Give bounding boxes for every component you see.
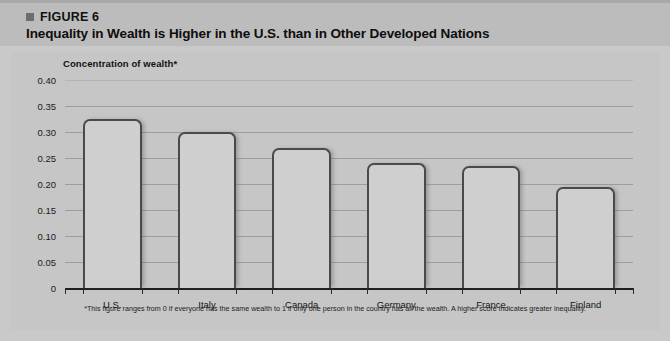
bar-canada: [272, 148, 331, 288]
x-axis-tick: [367, 288, 368, 294]
y-axis-tick-label: 0.05: [38, 257, 57, 268]
x-axis-tick: [236, 288, 237, 294]
y-axis-tick-label: 0.40: [38, 75, 57, 86]
square-bullet-icon: [26, 13, 34, 21]
gridline: [65, 132, 633, 133]
x-axis-tick: [615, 288, 616, 294]
x-axis-tick: [556, 288, 557, 294]
figure-container: FIGURE 6 Inequality in Wealth is Higher …: [0, 0, 670, 341]
gridline: [65, 158, 633, 159]
bar-france: [462, 166, 521, 288]
plot-area: 00.050.100.150.200.250.300.350.40U.S.Ita…: [65, 80, 633, 288]
bar-finland: [556, 187, 615, 288]
figure-footnote: *This figure ranges from 0 if everyone h…: [10, 304, 660, 313]
x-axis-tick: [426, 288, 427, 294]
gridline: [65, 262, 633, 263]
gridline: [65, 236, 633, 237]
figure-number-label: FIGURE 6: [40, 10, 99, 24]
y-axis-tick-label: 0.15: [38, 205, 57, 216]
x-axis-tick: [520, 288, 521, 294]
bar-italy: [178, 132, 237, 288]
figure-label-row: FIGURE 6: [26, 10, 99, 24]
y-axis-tick-label: 0.20: [38, 179, 57, 190]
y-axis-tick-label: 0.25: [38, 153, 57, 164]
gridline: [65, 210, 633, 211]
gridline: [65, 106, 633, 107]
y-axis-title: Concentration of wealth*: [63, 58, 177, 69]
gridline: [65, 80, 633, 81]
x-axis-tick: [142, 288, 143, 294]
bar-us: [83, 119, 142, 288]
y-axis-tick-label: 0.10: [38, 231, 57, 242]
y-axis-tick-label: 0.30: [38, 127, 57, 138]
figure-header-band: FIGURE 6 Inequality in Wealth is Higher …: [0, 0, 670, 46]
x-axis-tick: [272, 288, 273, 294]
x-axis-tick: [331, 288, 332, 294]
chart-panel: Concentration of wealth* 00.050.100.150.…: [10, 52, 660, 330]
figure-title: Inequality in Wealth is Higher in the U.…: [26, 26, 489, 41]
bar-germany: [367, 163, 426, 288]
y-axis-tick-label: 0.35: [38, 101, 57, 112]
x-axis-tick: [83, 288, 84, 294]
gridline: [65, 184, 633, 185]
x-axis-edge-tick: [65, 288, 66, 294]
y-axis-tick-label: 0: [51, 283, 56, 294]
x-axis-tick: [178, 288, 179, 294]
x-axis-edge-tick: [633, 288, 634, 294]
x-axis-tick: [462, 288, 463, 294]
gridline: [65, 288, 633, 290]
